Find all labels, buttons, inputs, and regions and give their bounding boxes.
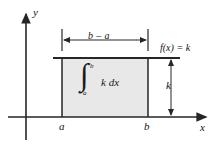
height-dimension-label: k (166, 80, 171, 91)
width-dimension-label: b – a (88, 31, 110, 41)
integral-upper-limit: b (90, 62, 94, 70)
function-label: f(x) = k (160, 43, 190, 53)
integral-symbol-group: ∫ b a (81, 64, 94, 98)
integral-expression: ∫ b a k dx (81, 64, 119, 98)
integral-lower-limit: a (83, 89, 87, 97)
y-axis-label: y (33, 7, 38, 18)
x-tick-label-a: a (59, 121, 65, 132)
integral-sign: ∫ (80, 59, 89, 90)
integral-figure: y x a b b – a f(x) = k k ∫ b a k dx (0, 0, 222, 147)
integral-integrand: k dx (101, 76, 119, 88)
x-axis-label: x (200, 122, 205, 133)
x-tick-label-b: b (144, 121, 150, 132)
